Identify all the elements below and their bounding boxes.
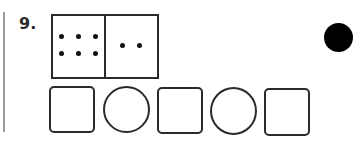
pip-icon: [76, 34, 81, 39]
pip-icon: [120, 43, 125, 48]
domino-left-half: [53, 16, 106, 77]
operator-circle-1[interactable]: [103, 86, 150, 133]
pip-icon: [59, 34, 64, 39]
answer-box-2[interactable]: [157, 87, 203, 134]
filled-circle-marker-icon: [324, 23, 353, 52]
pip-icon: [76, 51, 81, 56]
pip-icon: [137, 43, 142, 48]
margin-line: [3, 12, 5, 132]
domino-right-half: [106, 16, 157, 77]
pip-icon: [93, 51, 98, 56]
domino-card: [51, 14, 159, 79]
question-number: 9.: [19, 14, 36, 33]
pip-icon: [59, 51, 64, 56]
operator-circle-2[interactable]: [210, 87, 257, 135]
answer-box-1[interactable]: [49, 86, 95, 133]
answer-box-3[interactable]: [264, 88, 310, 136]
pip-icon: [93, 34, 98, 39]
